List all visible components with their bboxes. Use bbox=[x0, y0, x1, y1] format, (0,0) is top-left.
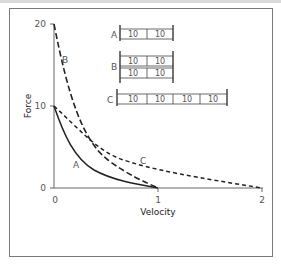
x-tick-2: 2 bbox=[259, 195, 265, 205]
svg-text:10: 10 bbox=[128, 30, 138, 39]
svg-text:10: 10 bbox=[128, 69, 138, 78]
x-axis-label: Velocity bbox=[140, 207, 176, 217]
svg-text:10: 10 bbox=[128, 57, 138, 66]
y-tick-20: 20 bbox=[35, 19, 47, 29]
diagram-b-label: B bbox=[111, 62, 117, 72]
curve-c bbox=[54, 106, 262, 188]
svg-text:10: 10 bbox=[208, 95, 218, 104]
y-tick-0: 0 bbox=[40, 183, 46, 193]
svg-text:10: 10 bbox=[128, 95, 138, 104]
svg-text:10: 10 bbox=[155, 57, 165, 66]
diagram-c-label: C bbox=[107, 95, 113, 105]
diagram-c: C 10 10 10 10 bbox=[107, 89, 227, 106]
svg-text:10: 10 bbox=[155, 69, 165, 78]
diagram-b: B 10 10 10 10 bbox=[111, 51, 173, 83]
curve-label-b: B bbox=[62, 55, 68, 65]
curve-a bbox=[54, 106, 158, 188]
y-tick-10: 10 bbox=[35, 101, 47, 111]
svg-text:10: 10 bbox=[155, 95, 165, 104]
axes bbox=[50, 24, 263, 192]
diagram-a-label: A bbox=[111, 30, 118, 40]
curve-label-c: C bbox=[140, 156, 146, 166]
x-tick-1: 1 bbox=[155, 195, 161, 205]
svg-text:10: 10 bbox=[182, 95, 192, 104]
curve-label-a: A bbox=[73, 160, 80, 170]
y-axis-label: Force bbox=[23, 93, 33, 118]
svg-text:10: 10 bbox=[155, 30, 165, 39]
diagram-a: A 10 10 bbox=[111, 25, 173, 41]
x-tick-0: 0 bbox=[52, 195, 58, 205]
force-velocity-chart: 20 10 0 0 1 2 Velocity Force B A C A 10 … bbox=[0, 0, 281, 266]
